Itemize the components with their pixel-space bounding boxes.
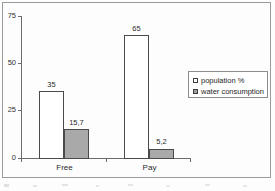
y-axis-label-25-wrap: 25 — [0, 106, 16, 114]
x-axis-label-pay: Pay — [132, 163, 167, 172]
y-axis-label-25: 25 — [8, 106, 16, 114]
legend-swatch-filled-icon — [193, 89, 198, 94]
y-axis-label-50-wrap: 50 — [0, 59, 16, 67]
legend-label-population: population % — [201, 76, 244, 85]
y-axis-label-75: 75 — [8, 12, 16, 20]
bar-value-pay-population: 65 — [119, 25, 154, 33]
legend-item-water: water consumption — [193, 86, 264, 96]
legend-item-population: population % — [193, 75, 264, 85]
y-axis-label-0-wrap: 0 — [0, 154, 16, 162]
x-axis-label-free: Free — [47, 163, 82, 172]
chart-screenshot: 75 50 25 0 35 15,7 65 5,2 Free Pay — [0, 0, 275, 191]
legend-swatch-outline-icon — [193, 78, 198, 83]
plot-area: 75 50 25 0 35 15,7 65 5,2 Free Pay — [0, 0, 275, 191]
x-tick-mid — [106, 159, 107, 162]
x-tick-end — [190, 159, 191, 162]
y-axis-label-0: 0 — [12, 154, 16, 162]
bar-free-water — [64, 129, 89, 159]
y-axis-line — [21, 16, 22, 159]
y-axis-label-75-wrap: 75 — [0, 12, 16, 20]
x-tick-start — [21, 159, 22, 162]
bar-value-free-population: 35 — [34, 81, 69, 89]
bar-value-free-water: 15,7 — [59, 119, 94, 127]
chart-legend: population % water consumption — [188, 71, 268, 98]
y-tick-25 — [18, 110, 21, 111]
y-tick-75 — [18, 16, 21, 17]
legend-label-water: water consumption — [201, 87, 264, 96]
y-tick-50 — [18, 63, 21, 64]
bar-value-pay-water: 5,2 — [144, 138, 179, 146]
bar-pay-water — [149, 149, 174, 159]
y-axis-label-50: 50 — [8, 59, 16, 67]
